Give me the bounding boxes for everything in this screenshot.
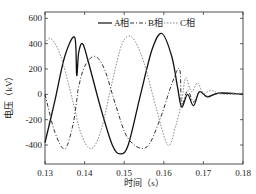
voltage-chart: 0.130.140.150.160.170.186004002000-200-4… [0, 0, 256, 194]
legend-label-c: C相 [180, 17, 195, 28]
x-axis-label: 时间（s） [124, 177, 164, 188]
x-tick-label: 0.14 [77, 168, 93, 178]
x-tick-label: 0.16 [156, 168, 172, 178]
y-tick-label: 600 [29, 13, 43, 23]
legend-label-b: B相 [148, 17, 163, 28]
x-tick-label: 0.15 [116, 168, 132, 178]
y-tick-label: 0 [38, 89, 43, 99]
x-tick-label: 0.18 [235, 168, 251, 178]
series-line-b [45, 56, 243, 149]
y-tick-label: 400 [29, 39, 43, 49]
series-line-a [45, 33, 243, 154]
series-line-c [45, 36, 243, 149]
y-tick-label: 200 [29, 64, 43, 74]
plot-frame [45, 12, 243, 164]
x-tick-label: 0.13 [37, 168, 53, 178]
y-tick-label: -400 [26, 140, 43, 150]
y-tick-label: -200 [26, 115, 43, 125]
axis-ticks: 0.130.140.150.160.170.186004002000-200-4… [26, 12, 252, 178]
legend-label-a: A相 [114, 17, 130, 28]
legend: A相 B相 C相 [98, 17, 195, 28]
x-tick-label: 0.17 [196, 168, 212, 178]
series-lines [45, 33, 243, 154]
y-axis-label: 电压（kV） [3, 72, 14, 119]
